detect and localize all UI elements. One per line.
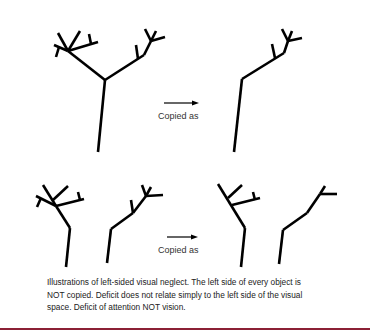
arrow-icon [164,101,199,106]
figure-caption: Illustrations of left-sided visual negle… [47,276,317,314]
original-tree-top [54,29,165,152]
copied-left-object-bottom [218,184,260,267]
copied-as-label-top: Copied as [158,111,199,121]
copied-right-object-bottom [279,186,337,264]
divider-rule [0,328,370,330]
original-left-object-bottom [36,185,84,267]
arrow-icon [167,235,198,240]
copied-as-label-bottom: Copied as [158,245,199,255]
figure: Copied as Copied as Illustrations of lef… [0,0,370,333]
original-right-object-bottom [107,185,163,263]
copied-tree-top [234,29,302,152]
